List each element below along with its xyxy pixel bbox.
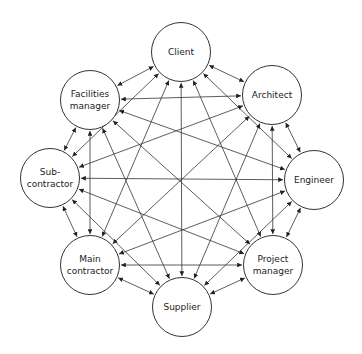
edge-project_manager-supplier xyxy=(210,278,245,294)
edge-main_contractor-sub_contractor xyxy=(63,206,77,237)
node-supplier: Supplier xyxy=(152,277,212,337)
node-project-manager: Project manager xyxy=(243,235,303,295)
node-label: Architect xyxy=(252,89,292,101)
node-label: Supplier xyxy=(163,301,200,313)
edge-architect-engineer xyxy=(286,123,301,152)
edge-supplier-main_contractor xyxy=(118,278,154,294)
node-label: Engineer xyxy=(294,174,334,186)
node-label: Client xyxy=(168,46,194,58)
node-architect: Architect xyxy=(242,65,302,125)
node-label: Project manager xyxy=(253,253,293,277)
node-main-contractor: Main contractor xyxy=(60,235,120,295)
node-label: Sub- contractor xyxy=(27,166,74,190)
node-facilities-manager: Facilities manager xyxy=(60,70,120,130)
edge-client-architect xyxy=(209,65,244,82)
node-client: Client xyxy=(151,22,211,82)
node-engineer: Engineer xyxy=(284,150,344,210)
edge-client-facilities_manager xyxy=(117,66,153,85)
network-diagram: ClientArchitectEngineerProject managerSu… xyxy=(0,0,362,354)
node-label: Facilities manager xyxy=(70,88,110,112)
edge-engineer-project_manager xyxy=(286,208,300,237)
node-sub-contractor: Sub- contractor xyxy=(20,148,80,208)
node-label: Main contractor xyxy=(67,253,114,277)
edge-sub_contractor-facilities_manager xyxy=(64,128,76,151)
